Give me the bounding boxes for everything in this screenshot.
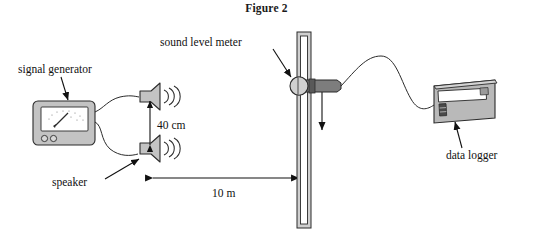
- wire-upper-speaker: [95, 96, 139, 112]
- sound-level-meter-label: sound level meter: [160, 36, 242, 48]
- generator-knob-2[interactable]: [50, 135, 56, 141]
- speaker-lower-waves: [164, 138, 180, 159]
- data-logger[interactable]: [434, 80, 497, 123]
- distance-dimension: 10 m: [153, 178, 299, 199]
- sound-level-meter[interactable]: [290, 77, 341, 95]
- data-logger-buttons[interactable]: [439, 104, 447, 116]
- cable-meter-to-logger: [341, 56, 434, 109]
- speaker-separation-dimension: 40 cm: [150, 101, 185, 145]
- signal-generator-label: signal generator: [18, 63, 92, 76]
- wire-lower-speaker: [95, 122, 138, 155]
- signal-generator[interactable]: [33, 101, 95, 145]
- data-logger-leader: [455, 122, 462, 148]
- microphone-clamp: [309, 79, 315, 93]
- data-logger-indicator-icon: [480, 88, 488, 95]
- signal-generator-leader: [61, 77, 68, 100]
- data-logger-label: data logger: [446, 149, 498, 162]
- distance-label: 10 m: [212, 187, 235, 199]
- speaker-leader: [105, 159, 139, 179]
- speaker-upper[interactable]: [140, 83, 180, 110]
- experiment-diagram: signal generator: [0, 0, 533, 241]
- signal-generator-display: [41, 107, 88, 131]
- speaker-upper-waves: [164, 86, 180, 107]
- separation-label: 40 cm: [157, 119, 185, 131]
- data-logger-display: [438, 88, 487, 102]
- vertical-rail: [297, 32, 311, 228]
- speaker-label: speaker: [52, 176, 87, 189]
- figure-container: Figure 2: [0, 0, 533, 241]
- rail-slot: [301, 36, 308, 224]
- generator-knob-1[interactable]: [41, 135, 47, 141]
- speaker-lower[interactable]: [140, 135, 180, 162]
- microphone-icon: [290, 77, 308, 95]
- generator-speaker-wires: [95, 96, 139, 156]
- sound-level-meter-leader: [273, 49, 291, 77]
